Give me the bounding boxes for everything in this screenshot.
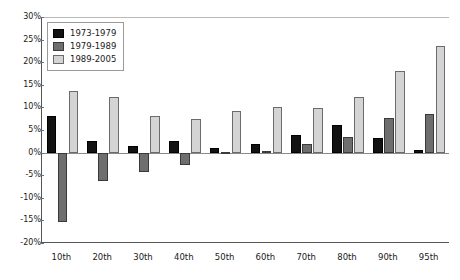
legend-item-label: 1973-1979 — [70, 29, 116, 38]
bar-20th-1979-1989 — [98, 153, 108, 181]
x-axis-tick-label: 95th — [404, 252, 454, 262]
bar-10th-1989-2005 — [69, 91, 79, 152]
y-axis-tick-label: 15% — [5, 81, 41, 89]
bar-50th-1989-2005 — [232, 111, 242, 152]
legend-item-1989-2005: 1989-2005 — [53, 53, 116, 66]
bar-95th-1973-1979 — [414, 150, 424, 152]
y-axis-tick-mark — [41, 153, 44, 154]
bar-40th-1989-2005 — [191, 119, 201, 152]
bar-95th-1989-2005 — [436, 46, 446, 152]
plot-top-border — [42, 17, 449, 18]
legend-item-1979-1989: 1979-1989 — [53, 40, 116, 53]
bar-90th-1973-1979 — [373, 138, 383, 153]
y-axis-tick-mark — [41, 130, 44, 131]
bar-50th-1973-1979 — [210, 148, 220, 153]
bar-10th-1973-1979 — [47, 116, 57, 152]
bar-70th-1979-1989 — [302, 144, 312, 153]
bar-70th-1973-1979 — [291, 135, 301, 153]
bar-40th-1979-1989 — [180, 153, 190, 165]
bar-70th-1989-2005 — [313, 108, 323, 152]
bar-90th-1989-2005 — [395, 71, 405, 153]
legend-swatch-icon — [53, 55, 64, 64]
y-axis-tick-label: 0% — [5, 149, 41, 157]
bar-30th-1973-1979 — [128, 146, 138, 153]
bar-40th-1973-1979 — [169, 141, 179, 153]
legend-item-1973-1979: 1973-1979 — [53, 27, 116, 40]
y-axis-tick-mark — [41, 107, 44, 108]
y-axis-tick-mark — [41, 17, 44, 18]
legend-item-label: 1989-2005 — [70, 55, 116, 64]
legend: 1973-19791979-19891989-2005 — [47, 22, 124, 71]
y-axis-tick-mark — [41, 243, 44, 244]
y-axis-tick-mark — [41, 198, 44, 199]
legend-item-label: 1979-1989 — [70, 42, 116, 51]
bar-30th-1979-1989 — [139, 153, 149, 172]
bar-60th-1989-2005 — [273, 107, 283, 152]
bar-30th-1989-2005 — [150, 116, 160, 153]
y-axis-tick-label: 5% — [5, 126, 41, 134]
bar-80th-1979-1989 — [343, 137, 353, 152]
y-axis-tick-mark — [41, 85, 44, 86]
y-axis-tick-mark — [41, 175, 44, 176]
bar-10th-1979-1989 — [58, 153, 68, 222]
bar-90th-1979-1989 — [384, 118, 394, 152]
y-axis-tick-mark — [41, 220, 44, 221]
bar-80th-1989-2005 — [354, 97, 364, 153]
y-axis: 30%25%20%15%10%5%0%-5%-10%-15%-20% — [0, 0, 41, 280]
bar-95th-1979-1989 — [425, 114, 435, 152]
y-axis-tick-label: 20% — [5, 58, 41, 66]
y-axis-tick-label: -15% — [5, 216, 41, 224]
y-axis-tick-label: -20% — [5, 239, 41, 247]
bar-50th-1979-1989 — [221, 152, 231, 154]
y-axis-tick-mark — [41, 40, 44, 41]
y-axis-tick-mark — [41, 62, 44, 63]
bar-20th-1989-2005 — [109, 97, 119, 152]
y-axis-tick-label: -10% — [5, 194, 41, 202]
bar-chart: 30%25%20%15%10%5%0%-5%-10%-15%-20% 1973-… — [0, 0, 460, 280]
bar-60th-1979-1989 — [262, 151, 272, 153]
bar-20th-1973-1979 — [87, 141, 97, 153]
y-axis-tick-label: 10% — [5, 103, 41, 111]
y-axis-tick-label: 30% — [5, 13, 41, 21]
bar-60th-1973-1979 — [251, 144, 261, 152]
y-axis-tick-label: -5% — [5, 171, 41, 179]
legend-swatch-icon — [53, 42, 64, 51]
bar-80th-1973-1979 — [332, 125, 342, 152]
legend-swatch-icon — [53, 29, 64, 38]
y-axis-tick-label: 25% — [5, 36, 41, 44]
